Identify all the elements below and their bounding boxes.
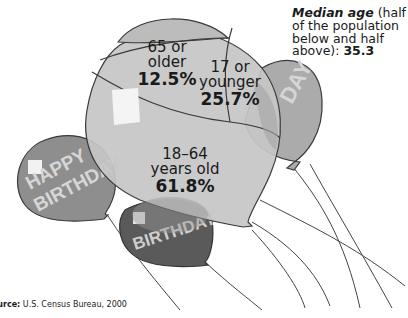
- slice-label-18-64: 18–64 years old 61.8%: [135, 147, 235, 195]
- source-text: U.S. Census Bureau, 2000: [20, 300, 127, 309]
- source-note: Source: U.S. Census Bureau, 2000: [0, 300, 127, 309]
- median-age-annotation: Median age (half of the population below…: [292, 7, 408, 58]
- median-age-value: 35.3: [343, 43, 374, 58]
- source-label: Source:: [0, 300, 20, 309]
- slice-label-17-younger: 17 or younger 25.7%: [190, 60, 270, 108]
- slice-category: younger: [190, 75, 270, 90]
- slice-category: years old: [135, 162, 235, 177]
- slice-value: 61.8%: [135, 178, 235, 195]
- slice-value: 25.7%: [190, 91, 270, 108]
